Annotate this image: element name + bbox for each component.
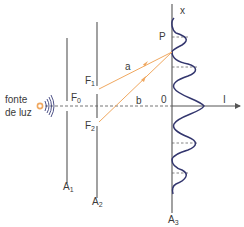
ray-a-label: a <box>125 61 131 72</box>
diagram-canvas: fonte de luz F0 F1 F2 A1 A2 A3 a b x P 0… <box>0 0 244 227</box>
ray-a <box>99 52 172 89</box>
double-slit-diagram: fonte de luz F0 F1 F2 A1 A2 A3 a b x P 0… <box>0 0 244 227</box>
x-axis-label: x <box>180 5 185 16</box>
source-label-line1: fonte <box>5 94 28 105</box>
maxima-markers <box>172 37 197 173</box>
barrier-a2-label: A2 <box>92 196 103 208</box>
point-p-label: P <box>159 31 166 42</box>
barrier-a1-label: A1 <box>63 181 74 193</box>
ray-b-label: b <box>136 95 142 106</box>
screen-a3-label: A3 <box>168 214 179 226</box>
source-label-line2: de luz <box>5 107 32 118</box>
slit-f2-label: F2 <box>85 120 95 132</box>
intensity-axis-label: I <box>223 94 226 105</box>
slit-f0-label: F0 <box>71 92 81 104</box>
slit-f1-label: F1 <box>85 75 95 87</box>
origin-label: 0 <box>161 94 167 105</box>
ray-b <box>99 52 172 122</box>
